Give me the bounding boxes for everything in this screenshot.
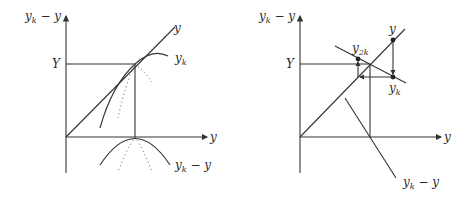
right-point-yk: [391, 75, 396, 80]
right-point-y-label: y: [388, 22, 396, 36]
left-panel: yk − y y Y y yk yk − y: [24, 9, 217, 174]
left-lower-dotted-1: [118, 137, 135, 172]
right-line-label: yk − y: [402, 175, 439, 191]
right-point-y2k: [356, 57, 361, 62]
right-level-label: Y: [286, 57, 295, 71]
left-lower-dotted-2: [135, 137, 152, 172]
left-level-label: Y: [52, 57, 61, 71]
right-x-axis-label: y: [443, 130, 451, 144]
right-point-y: [391, 38, 396, 43]
left-dotted-curve-1: [118, 64, 135, 118]
left-dotted-curve-2: [135, 64, 152, 82]
right-point-y2k-label: y2k: [351, 41, 369, 57]
left-lower-parabola: [100, 139, 170, 166]
right-panel: yk − y y Y y yk y2k yk − y: [258, 9, 451, 191]
left-diagonal-label: y: [173, 21, 181, 35]
left-lower-curve-label: yk − y: [174, 158, 211, 174]
left-y-axis-label: yk − y: [24, 9, 61, 25]
right-point-yk-label: yk: [388, 81, 401, 97]
right-y-axis-label: yk − y: [258, 9, 295, 25]
left-x-axis-label: y: [209, 130, 217, 144]
diagram-canvas: yk − y y Y y yk yk − y yk − y y Y y yk y…: [0, 0, 474, 198]
left-curve-label: yk: [174, 51, 187, 67]
